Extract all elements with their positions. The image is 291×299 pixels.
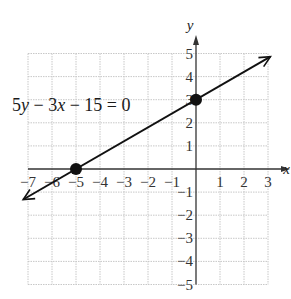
equation-part: y [19,95,29,115]
x-axis-label: x [282,161,290,177]
x-tick-label: −7 [20,174,36,190]
x-tick-label: 3 [264,174,272,190]
y-tick-label: 2 [186,115,194,131]
y-tick-label: −1 [177,184,193,200]
x-tick-label: −3 [116,174,132,190]
y-tick-label: 4 [186,69,194,85]
x-tick-label: −5 [68,174,84,190]
y-axis-label: y [185,17,194,33]
equation-part: − 15 = 0 [65,95,130,115]
line-graph: −7−6−5−4−3−2−112354321−1−2−3−4−5 5y − 3x… [0,0,291,299]
equation-label: 5y − 3x − 15 = 0 [12,95,130,115]
y-tick-label: 5 [186,46,194,62]
x-tick-label: −4 [92,174,108,190]
y-axis-arrow-icon [193,35,199,45]
x-tick-label: 1 [216,174,224,190]
y-tick-label: −3 [177,230,193,246]
equation-part: − 3 [29,95,57,115]
y-tick-label: −5 [177,277,193,293]
y-tick-label: 1 [186,138,194,154]
x-intercept-point [70,163,82,175]
y-intercept-point [190,94,202,106]
x-tick-label: 2 [240,174,248,190]
axes [28,35,290,285]
equation-part: 5 [12,95,21,115]
x-tick-label: −2 [140,174,156,190]
y-tick-label: −4 [177,253,193,269]
equation-part: x [56,95,65,115]
y-tick-label: −2 [177,207,193,223]
